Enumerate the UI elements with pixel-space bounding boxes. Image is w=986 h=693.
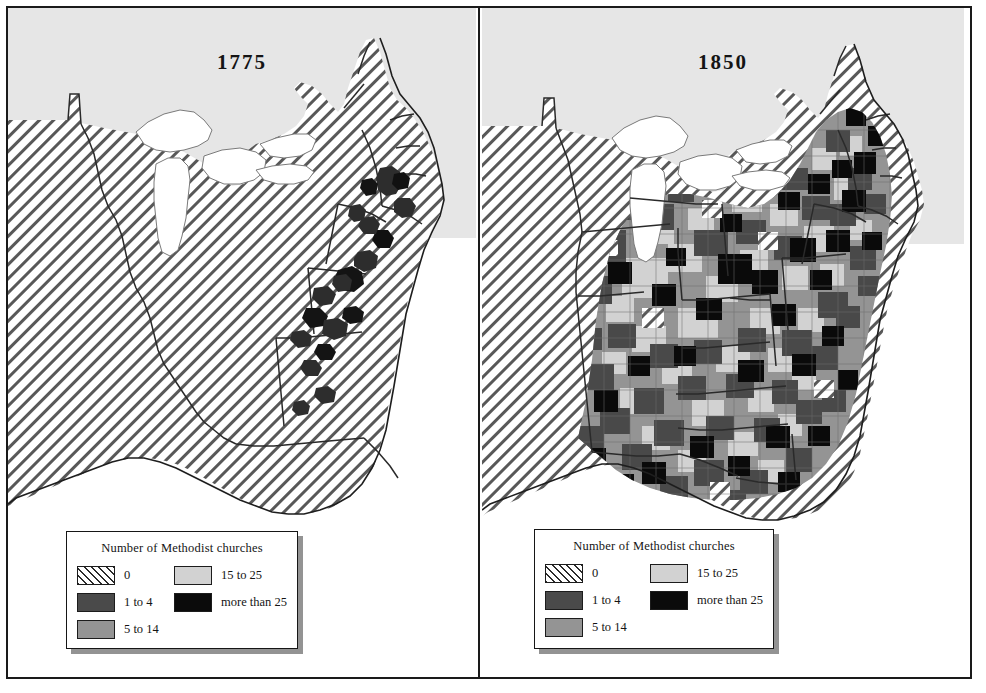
legend-label-more-than-25: more than 25 xyxy=(697,593,763,608)
panel-title-1850: 1850 xyxy=(482,50,964,75)
swatch-zero-icon xyxy=(77,566,115,585)
legend-row-15-to-25: 15 to 25 xyxy=(174,566,287,585)
legend-row-zero: 0 xyxy=(77,566,174,585)
map-panel-1850: 1850 Number of Methodist churches 0 1 to… xyxy=(482,8,964,677)
swatch-1-to-4-icon xyxy=(545,591,583,610)
swatch-more-than-25-icon xyxy=(174,593,212,612)
legend-column-left: 0 1 to 4 5 to 14 xyxy=(545,564,650,645)
legend-label-5-to-14: 5 to 14 xyxy=(124,622,159,637)
legend-label-1-to-4: 1 to 4 xyxy=(124,595,152,610)
legend-row-1-to-4: 1 to 4 xyxy=(545,591,650,610)
panel-title-1775: 1775 xyxy=(8,50,476,75)
swatch-15-to-25-icon xyxy=(650,564,688,583)
legend-label-zero: 0 xyxy=(124,568,130,583)
legend-1850: Number of Methodist churches 0 1 to 4 5 … xyxy=(534,529,774,649)
swatch-5-to-14-icon xyxy=(545,618,583,637)
legend-row-5-to-14: 5 to 14 xyxy=(545,618,650,637)
legend-label-15-to-25: 15 to 25 xyxy=(697,566,738,581)
legend-1775: Number of Methodist churches 0 1 to 4 5 … xyxy=(66,531,298,649)
swatch-zero-icon xyxy=(545,564,583,583)
panel-divider xyxy=(478,8,480,677)
swatch-15-to-25-icon xyxy=(174,566,212,585)
legend-row-zero: 0 xyxy=(545,564,650,583)
methodist-churches-figure: 1775 Number of Methodist churches 0 1 to… xyxy=(0,0,986,693)
legend-column-left: 0 1 to 4 5 to 14 xyxy=(77,566,174,647)
swatch-5-to-14-icon xyxy=(77,620,115,639)
legend-column-right: 15 to 25 more than 25 xyxy=(174,566,287,647)
legend-label-5-to-14: 5 to 14 xyxy=(592,620,627,635)
swatch-1-to-4-icon xyxy=(77,593,115,612)
legend-row-1-to-4: 1 to 4 xyxy=(77,593,174,612)
legend-title: Number of Methodist churches xyxy=(67,541,297,556)
legend-row-5-to-14: 5 to 14 xyxy=(77,620,174,639)
legend-row-more-than-25: more than 25 xyxy=(174,593,287,612)
legend-row-more-than-25: more than 25 xyxy=(650,591,763,610)
legend-label-more-than-25: more than 25 xyxy=(221,595,287,610)
legend-label-15-to-25: 15 to 25 xyxy=(221,568,262,583)
swatch-more-than-25-icon xyxy=(650,591,688,610)
legend-label-zero: 0 xyxy=(592,566,598,581)
legend-title: Number of Methodist churches xyxy=(535,539,773,554)
legend-label-1-to-4: 1 to 4 xyxy=(592,593,620,608)
map-panel-1775: 1775 Number of Methodist churches 0 1 to… xyxy=(8,8,476,677)
legend-column-right: 15 to 25 more than 25 xyxy=(650,564,763,645)
legend-row-15-to-25: 15 to 25 xyxy=(650,564,763,583)
